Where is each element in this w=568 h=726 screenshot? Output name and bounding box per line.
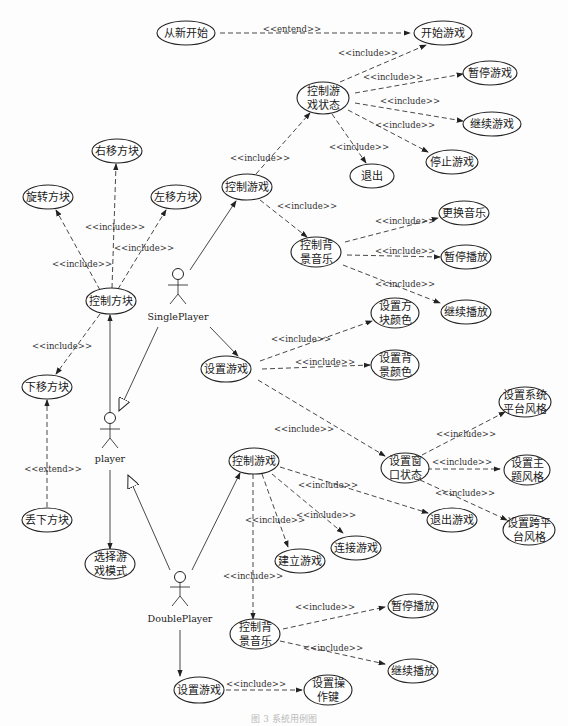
actor-single-player[interactable]: SinglePlayer [147,269,208,323]
svg-text:退出: 退出 [361,169,383,183]
use-case-double-control-music[interactable]: 控制背 景音乐 [230,619,280,649]
figure-caption: 图 3 系统用例图 [251,713,316,724]
use-case-drop-block[interactable]: 丢下方块 [22,508,72,532]
use-case-connect-game[interactable]: 连接游戏 [331,536,381,560]
use-case-move-right[interactable]: 右移方块 [92,139,142,163]
svg-text:更换音乐: 更换音乐 [442,206,486,220]
svg-text:从新开始: 从新开始 [164,26,208,40]
use-case-double-control-game[interactable]: 控制游戏 [229,448,279,474]
svg-text:暂停游戏: 暂停游戏 [468,66,512,80]
use-case-bg-color[interactable]: 设置背 景颜色 [371,350,419,380]
use-case-single-control-music[interactable]: 控制背 景音乐 [291,237,341,267]
svg-text:戏模式: 戏模式 [94,565,127,578]
use-case-move-down[interactable]: 下移方块 [22,375,72,399]
actor-double-player[interactable]: DoublePlayer [148,572,213,625]
svg-text:作键: 作键 [317,690,339,704]
use-case-single-resume-play[interactable]: 继续播放 [441,300,491,324]
svg-text:景颜色: 景颜色 [379,365,412,379]
include-label: <<include>> [230,153,290,163]
use-case-exit-game[interactable]: 退出游戏 [427,508,477,532]
stick-figure-icon [100,413,120,449]
include-label: <<include>> [435,488,495,498]
use-case-move-left[interactable]: 左移方块 [151,185,201,209]
use-case-rotate[interactable]: 旋转方块 [23,185,73,209]
use-case-control-game-state[interactable]: 控制游 戏状态 [297,82,349,114]
svg-text:设置跨平: 设置跨平 [507,517,551,530]
include-label: <<include>> [329,142,389,152]
use-case-window-state[interactable]: 设置窗 口状态 [381,453,429,483]
use-case-double-pause-play[interactable]: 暂停播放 [388,594,438,618]
svg-text:题风格: 题风格 [511,470,544,484]
extend-label: <<extend>> [24,464,82,474]
use-case-theme-style[interactable]: 设置主 题风格 [504,455,550,485]
svg-text:平台风格: 平台风格 [503,402,547,416]
use-case-change-music[interactable]: 更换音乐 [439,201,489,225]
include-label: <<include>> [375,246,435,256]
use-case-pause-game[interactable]: 暂停游戏 [463,61,517,85]
include-label: <<include>> [338,48,398,58]
include-label: <<include>> [245,515,305,525]
use-case-select-mode[interactable]: 选择游 戏模式 [85,549,135,579]
use-case-key-settings[interactable]: 设置操 作键 [304,675,352,705]
use-case-block-color[interactable]: 设置方 块颜色 [371,298,419,328]
include-label: <<include>> [226,679,286,689]
include-label: <<include>> [363,72,423,82]
svg-text:设置背: 设置背 [379,351,412,365]
include-label: <<include>> [303,643,363,653]
svg-text:选择游: 选择游 [94,550,127,564]
use-case-start-game[interactable]: 开始游戏 [414,21,472,45]
include-label: <<include>> [32,341,92,351]
include-label: <<include>> [380,96,440,106]
use-case-restart[interactable]: 从新开始 [157,21,215,45]
svg-text:设置系统: 设置系统 [503,389,547,402]
svg-text:继续播放: 继续播放 [444,305,488,319]
include-label: <<include>> [114,243,174,253]
include-label: <<include>> [375,216,435,226]
use-case-double-settings[interactable]: 设置游戏 [174,677,224,703]
use-case-system-style[interactable]: 设置系统 平台风格 [499,387,551,417]
extend-label: <<entend>> [263,24,321,34]
include-label: <<include>> [277,201,337,211]
include-label: <<include>> [85,222,145,232]
svg-text:控制游戏: 控制游戏 [225,180,269,194]
svg-text:景音乐: 景音乐 [300,252,333,266]
include-label: <<include>> [375,120,435,130]
use-case-double-resume-play[interactable]: 继续播放 [388,659,438,683]
use-case-single-settings[interactable]: 设置游戏 [201,356,251,382]
include-label: <<include>> [295,357,355,367]
use-case-single-pause-play[interactable]: 暂停播放 [441,245,491,269]
use-case-resume-game[interactable]: 继续游戏 [463,112,521,136]
use-case-cross-platform-style[interactable]: 设置跨平 台风格 [503,515,555,545]
svg-text:右移方块: 右移方块 [95,144,139,158]
include-label: <<include>> [223,571,283,581]
use-case-stop-game[interactable]: 停止游戏 [426,150,478,174]
svg-text:停止游戏: 停止游戏 [430,155,474,169]
actor-label: SinglePlayer [147,311,208,322]
connectors [47,33,507,690]
use-case-exit[interactable]: 退出 [350,164,394,188]
include-label: <<include>> [52,259,112,269]
svg-text:丢下方块: 丢下方块 [25,513,69,527]
svg-text:左移方块: 左移方块 [154,190,198,204]
svg-text:块颜色: 块颜色 [379,313,412,327]
svg-text:控制游: 控制游 [307,84,340,98]
use-case-control-block[interactable]: 控制方块 [86,288,136,314]
svg-text:设置操: 设置操 [312,676,345,690]
svg-text:景音乐: 景音乐 [239,634,272,648]
use-case-create-game[interactable]: 建立游戏 [275,549,325,573]
stereotype-labels: <<entend>> <<include>> <<include>> <<inc… [24,24,496,689]
actor-player[interactable]: player [95,413,126,465]
include-label: <<include>> [271,334,331,344]
svg-text:戏状态: 戏状态 [307,98,340,112]
svg-text:设置游戏: 设置游戏 [204,363,248,376]
include-label: <<include>> [436,429,496,439]
use-case-single-control-game[interactable]: 控制游戏 [222,174,272,200]
svg-text:控制游戏: 控制游戏 [232,454,276,468]
svg-text:台风格: 台风格 [513,530,546,544]
svg-text:控制方块: 控制方块 [89,294,133,308]
use-case-diagram: <<entend>> <<include>> <<include>> <<inc… [0,0,568,726]
svg-text:暂停播放: 暂停播放 [391,599,435,613]
svg-text:继续游戏: 继续游戏 [470,117,514,131]
svg-text:暂停播放: 暂停播放 [444,250,488,264]
actor-label: player [95,453,126,464]
